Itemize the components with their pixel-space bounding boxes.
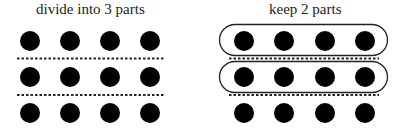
dot [355, 67, 375, 87]
dot [140, 67, 160, 87]
dot [20, 31, 40, 51]
dot [274, 103, 294, 123]
dot [100, 31, 120, 51]
dot [140, 31, 160, 51]
dot [274, 67, 294, 87]
dot [20, 103, 40, 123]
dot [315, 67, 335, 87]
dot [355, 31, 375, 51]
dot [20, 67, 40, 87]
dot [140, 103, 160, 123]
dot [234, 67, 254, 87]
dot [60, 31, 80, 51]
dot [60, 67, 80, 87]
dot [60, 103, 80, 123]
dot [100, 67, 120, 87]
diagram [0, 0, 403, 133]
dot [315, 31, 335, 51]
dot [355, 103, 375, 123]
dot [315, 103, 335, 123]
dot [274, 31, 294, 51]
dot [100, 103, 120, 123]
dot [234, 31, 254, 51]
right-panel [220, 25, 388, 124]
dot [234, 103, 254, 123]
left-panel [17, 31, 164, 123]
